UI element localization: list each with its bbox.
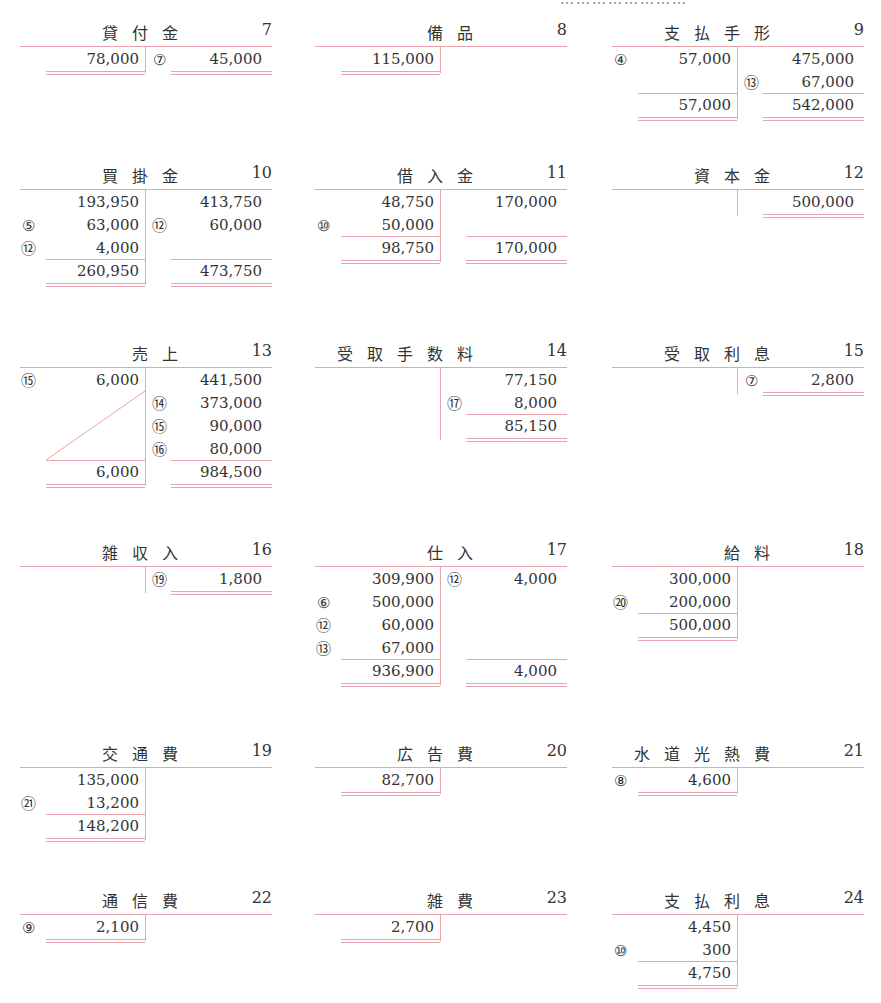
closing-double-rule <box>171 283 272 287</box>
account-number: 22 <box>252 888 272 907</box>
t-divider <box>737 367 738 394</box>
account-number: 16 <box>252 540 272 559</box>
debit-total: 260,950 <box>77 260 139 282</box>
account-number: 11 <box>547 163 567 182</box>
entry-ref-marker: ⑰ <box>446 393 462 415</box>
debit-amount: 63,000 <box>87 214 140 236</box>
entry-ref-marker: ⑫ <box>446 569 462 591</box>
entry-ref-marker: ⑥ <box>315 592 331 614</box>
account-title: 水道光熱費21 <box>612 739 864 763</box>
debit-amount: 300 <box>702 939 731 961</box>
closing-double-rule <box>341 260 440 264</box>
t-divider <box>737 46 738 119</box>
t-divider <box>145 767 146 840</box>
account-title: 給料18 <box>612 538 864 562</box>
account-name: 通信費 <box>102 888 192 912</box>
debit-amount: 2,700 <box>391 916 434 938</box>
closing-double-rule <box>171 591 272 595</box>
debit-amount: 4,000 <box>96 237 139 259</box>
header-rule <box>612 914 864 915</box>
closing-double-rule <box>341 792 440 796</box>
credit-amount: 413,750 <box>200 191 262 213</box>
header-rule <box>612 367 864 368</box>
account-title: 交通費19 <box>20 739 272 763</box>
header-rule <box>315 767 567 768</box>
closing-double-rule <box>46 838 145 842</box>
t-divider <box>440 189 441 262</box>
account-number: 20 <box>547 741 567 760</box>
t-divider <box>145 914 146 941</box>
closing-double-rule <box>763 117 864 121</box>
closing-double-rule <box>638 637 737 641</box>
debit-amount: 135,000 <box>77 769 139 791</box>
header-rule <box>315 566 567 567</box>
header-rule <box>612 566 864 567</box>
entry-ref-marker: ⑦ <box>151 49 167 71</box>
header-rule <box>315 367 567 368</box>
account-number: 23 <box>547 888 567 907</box>
diagonal-fill-line <box>20 339 272 492</box>
account-title: 受取利息15 <box>612 339 864 363</box>
debit-amount: 50,000 <box>382 214 435 236</box>
debit-total: 57,000 <box>679 94 732 116</box>
credit-amount: 1,800 <box>219 568 262 590</box>
account-title: 備品8 <box>315 18 567 42</box>
closing-double-rule <box>466 438 567 442</box>
t-divider <box>440 566 441 685</box>
debit-amount: 309,900 <box>372 568 434 590</box>
account-title: 資本金12 <box>612 161 864 185</box>
entry-ref-marker: ⑧ <box>612 770 628 792</box>
closing-double-rule <box>46 283 145 287</box>
t-divider <box>440 914 441 941</box>
t-divider <box>737 767 738 794</box>
closing-double-rule <box>638 792 737 796</box>
header-rule <box>612 189 864 190</box>
debit-amount: 115,000 <box>372 48 434 70</box>
debit-amount: 300,000 <box>669 568 731 590</box>
t-divider <box>440 767 441 794</box>
t-divider <box>145 566 146 593</box>
account-title: 支払手形9 <box>612 18 864 42</box>
debit-amount: 82,700 <box>382 769 435 791</box>
debit-total: 4,750 <box>688 962 731 984</box>
header-rule <box>315 914 567 915</box>
t-divider <box>737 189 738 216</box>
debit-amount: 4,450 <box>688 916 731 938</box>
account-name: 受取手数料 <box>337 341 487 365</box>
account-title: 広告費20 <box>315 739 567 763</box>
debit-amount: 48,750 <box>382 191 435 213</box>
entry-ref-marker: ⑬ <box>315 638 331 660</box>
header-rule <box>612 46 864 47</box>
closing-double-rule <box>763 392 864 396</box>
closing-double-rule <box>341 683 440 687</box>
entry-ref-marker: ⑤ <box>20 215 36 237</box>
debit-total: 936,900 <box>372 660 434 682</box>
account-number: 24 <box>844 888 864 907</box>
account-number: 12 <box>844 163 864 182</box>
closing-double-rule <box>763 214 864 218</box>
credit-total: 473,750 <box>200 260 262 282</box>
account-title: 借入金11 <box>315 161 567 185</box>
account-number: 10 <box>252 163 272 182</box>
t-divider <box>145 46 146 73</box>
account-number: 21 <box>844 741 864 760</box>
header-rule <box>20 767 272 768</box>
account-number: 15 <box>844 341 864 360</box>
closing-double-rule <box>638 117 737 121</box>
account-number: 19 <box>252 741 272 760</box>
credit-amount: 45,000 <box>210 48 263 70</box>
credit-amount: 2,800 <box>811 369 854 391</box>
account-name: 広告費 <box>397 741 487 765</box>
t-divider <box>737 914 738 987</box>
debit-amount: 200,000 <box>669 591 731 613</box>
closing-double-rule <box>466 683 567 687</box>
t-divider <box>145 189 146 285</box>
account-name: 備品 <box>427 20 487 44</box>
page-header-fragment: …………………… <box>560 0 880 5</box>
t-divider <box>440 367 441 440</box>
account-name: 買掛金 <box>102 163 192 187</box>
t-divider <box>737 566 738 639</box>
entry-ref-marker: ⑩ <box>612 940 628 962</box>
account-number: 7 <box>262 20 272 39</box>
debit-total: 98,750 <box>382 237 435 259</box>
